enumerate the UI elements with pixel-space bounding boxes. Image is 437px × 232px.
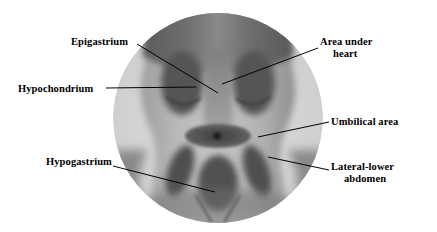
label-area-under-heart-line2: heart: [320, 48, 372, 60]
label-umbilical-area: Umbilical area: [331, 116, 398, 128]
label-hypogastrium: Hypogastrium: [46, 156, 112, 168]
label-area-under-heart-line1: Area under: [320, 36, 372, 47]
label-lateral-lower-abdomen: Lateral-lower abdomen: [331, 161, 394, 184]
label-area-under-heart: Area under heart: [320, 36, 372, 59]
label-epigastrium: Epigastrium: [71, 36, 128, 48]
label-lateral-lower-abdomen-line1: Lateral-lower: [331, 161, 394, 172]
label-lateral-lower-abdomen-line2: abdomen: [331, 173, 394, 185]
abdominal-regions-figure: Epigastrium Hypochondrium Hypogastrium A…: [0, 0, 437, 232]
label-hypochondrium: Hypochondrium: [18, 83, 93, 95]
navel-dot: [213, 133, 221, 139]
epigastric-column: [203, 48, 233, 132]
illustration-clip-group: [112, 0, 324, 232]
